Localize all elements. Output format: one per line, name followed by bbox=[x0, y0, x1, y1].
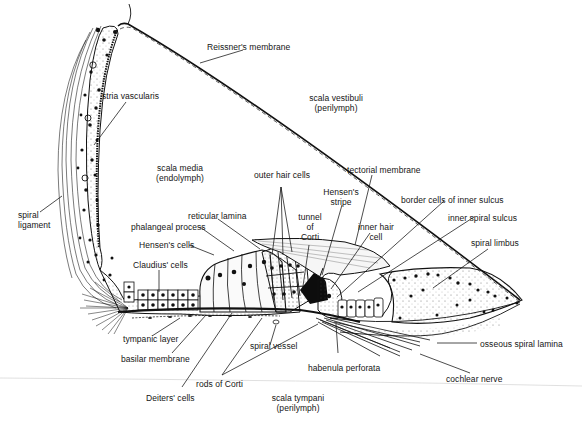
label-scala-media: scala media (endolymph) bbox=[147, 163, 213, 183]
cochlea-illustration bbox=[0, 0, 582, 421]
inner-hair-cell-line2: cell bbox=[353, 232, 399, 242]
label-scala-tympani: scala tympani (perilymph) bbox=[262, 393, 334, 413]
label-inner-hair-cell: inner hair cell bbox=[353, 222, 399, 242]
label-hensens-stripe: Hensen's stripe bbox=[318, 187, 364, 207]
scala-vestibuli-name: scala vestibuli bbox=[296, 93, 376, 103]
label-reissners-membrane: Reissner's membrane bbox=[207, 42, 290, 52]
spiral-ligament-line1: spiral bbox=[18, 210, 51, 220]
tunnel-of-corti-line1: tunnel bbox=[293, 212, 327, 222]
scala-tympani-name: scala tympani bbox=[262, 393, 334, 403]
hensens-stripe-line2: stripe bbox=[318, 197, 364, 207]
label-tunnel-of-corti: tunnel of Corti bbox=[293, 212, 327, 242]
spiral-limbus-shape bbox=[380, 268, 522, 324]
label-cochlear-nerve: cochlear nerve bbox=[446, 374, 502, 384]
label-reticular-lamina: reticular lamina bbox=[188, 211, 246, 221]
tunnel-of-corti-line3: Corti bbox=[293, 232, 327, 242]
label-phalangeal-process: phalangeal process bbox=[131, 222, 206, 232]
label-spiral-limbus: spiral limbus bbox=[471, 238, 519, 248]
label-border-cells-inner-sulcus: border cells of inner sulcus bbox=[401, 195, 504, 205]
tunnel-of-corti-line2: of bbox=[293, 222, 327, 232]
label-outer-hair-cells: outer hair cells bbox=[254, 170, 310, 180]
hensens-stripe-line1: Hensen's bbox=[318, 187, 364, 197]
spiral-ligament-line2: ligament bbox=[18, 220, 51, 230]
scala-media-fluid: (endolymph) bbox=[147, 173, 213, 183]
scala-tympani-fluid: (perilymph) bbox=[262, 403, 334, 413]
label-inner-spiral-sulcus: inner spiral sulcus bbox=[448, 213, 517, 223]
cochlea-diagram: Reissner's membrane scala vestibuli (per… bbox=[0, 0, 582, 421]
label-hensens-cells: Hensen's cells bbox=[139, 240, 194, 250]
label-deiters-cells: Deiters' cells bbox=[146, 393, 195, 403]
label-basilar-membrane: basilar membrane bbox=[121, 354, 190, 364]
label-tectorial-membrane: tectorial membrane bbox=[347, 165, 421, 175]
label-claudius-cells: Claudius' cells bbox=[133, 260, 188, 270]
label-spiral-ligament: spiral ligament bbox=[18, 210, 51, 230]
label-osseous-spiral-lamina: osseous spiral lamina bbox=[480, 339, 563, 349]
scala-vestibuli-fluid: (perilymph) bbox=[296, 103, 376, 113]
label-rods-of-corti: rods of Corti bbox=[196, 379, 243, 389]
scala-media-name: scala media bbox=[147, 163, 213, 173]
label-spiral-vessel: spiral vessel bbox=[250, 341, 297, 351]
inner-hair-cell-line1: inner hair bbox=[353, 222, 399, 232]
label-scala-vestibuli: scala vestibuli (perilymph) bbox=[296, 93, 376, 113]
ligament-fan bbox=[80, 282, 128, 334]
label-stria-vascularis: stria vascularis bbox=[102, 91, 159, 101]
label-tympanic-layer: tympanic layer bbox=[123, 334, 179, 344]
label-habenula-perforata: habenula perforata bbox=[308, 363, 380, 373]
